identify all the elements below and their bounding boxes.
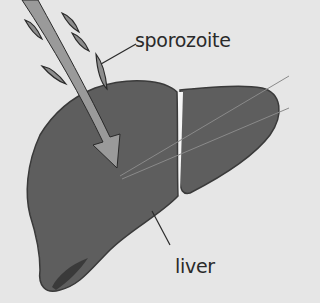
liver-right-lobe (180, 86, 279, 193)
sporozoite-icon (96, 54, 107, 89)
sporozoite-leader-line (101, 44, 136, 64)
sporozoite-icon (62, 13, 79, 32)
liver-leader-line (152, 211, 170, 245)
sporozoite-icon (72, 33, 89, 51)
liver-label: liver (175, 257, 215, 276)
sporozoite-icon (42, 66, 66, 84)
sporozoite-label: sporozoite (135, 31, 231, 50)
liver-main-lobe (27, 81, 178, 292)
